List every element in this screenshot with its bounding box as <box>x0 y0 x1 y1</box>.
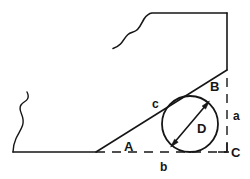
left-break-line <box>13 92 28 152</box>
label-side-b: b <box>160 161 167 173</box>
chamfer-line <box>96 70 227 152</box>
label-side-c: c <box>152 98 159 110</box>
label-angle-c: C <box>231 146 240 159</box>
label-angle-a: A <box>124 140 133 153</box>
corner-tick-c <box>218 143 227 152</box>
label-diameter-d: D <box>197 122 206 135</box>
top-edge-with-break-line <box>113 13 227 49</box>
label-side-a: a <box>233 110 240 122</box>
label-angle-b: B <box>210 80 219 93</box>
technical-drawing-figure: B a C A b c D <box>0 0 250 179</box>
